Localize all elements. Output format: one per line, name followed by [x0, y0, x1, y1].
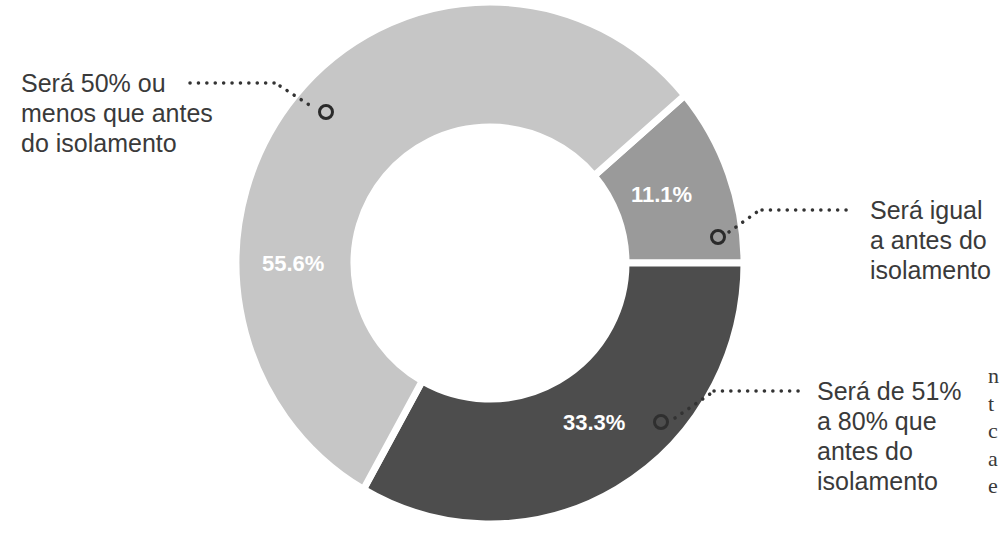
donut-segment-dark: [363, 263, 744, 524]
cropped-margin-text: n t c a e: [988, 362, 999, 500]
value-label-dark: 33.3%: [563, 410, 625, 436]
legend-label-dark: Será de 51% a 80% que antes do isolament…: [817, 376, 962, 496]
value-label-mid: 11.1%: [631, 182, 692, 208]
legend-label-light: Será 50% ou menos que antes do isolament…: [21, 68, 213, 158]
legend-label-mid: Será igual a antes do isolamento: [870, 195, 991, 285]
value-label-light: 55.6%: [262, 251, 324, 277]
